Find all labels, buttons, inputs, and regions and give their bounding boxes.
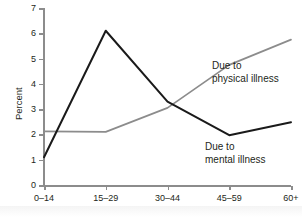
line-chart: Percent 01234567 0–1415–2930–4445–5960+ …	[0, 0, 302, 217]
page-edge-artifact	[0, 206, 302, 217]
annotation-mental-illness: Due to mental illness	[205, 141, 266, 166]
series-line-physical-illness	[44, 40, 291, 132]
chart-series-layer	[0, 0, 302, 217]
annotation-mental-line1: Due to	[205, 141, 266, 154]
annotation-physical-line2: physical illness	[212, 73, 279, 86]
annotation-mental-line2: mental illness	[205, 154, 266, 167]
series-line-mental-illness	[44, 31, 291, 157]
annotation-physical-illness: Due to physical illness	[212, 60, 279, 85]
annotation-physical-line1: Due to	[212, 60, 279, 73]
